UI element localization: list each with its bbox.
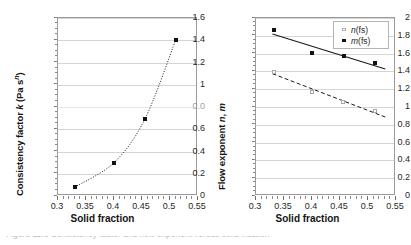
x-tick-label: 0.5 (361, 201, 374, 211)
y-minor-tick (253, 146, 255, 147)
y-minor-tick (253, 110, 255, 111)
x-tick-label: 0.45 (132, 201, 150, 211)
x-minor-tick (163, 196, 164, 199)
y-minor-tick (55, 122, 57, 123)
y-minor-tick (55, 178, 57, 179)
y-minor-tick (253, 190, 255, 191)
y-tick-label: 0.8 (364, 119, 410, 129)
y-minor-tick (55, 39, 57, 40)
y-minor-tick (253, 61, 255, 62)
y-minor-tick (55, 161, 57, 162)
x-tick-label: 0.35 (274, 201, 292, 211)
y-tick-label: 1 (152, 79, 205, 89)
y-tick-label: 0.6 (152, 123, 205, 133)
left-y-axis-units: (Pa s (14, 80, 25, 105)
y-minor-tick (55, 183, 57, 184)
x-major-tick (169, 196, 170, 200)
x-tick-label: 0.4 (305, 201, 318, 211)
y-minor-tick (253, 34, 255, 35)
x-minor-tick (317, 196, 318, 199)
data-point (143, 117, 147, 121)
y-minor-tick (55, 100, 57, 101)
x-minor-tick (373, 196, 374, 199)
right-x-axis-title-text: Solid fraction (276, 213, 340, 224)
y-minor-tick (55, 83, 57, 84)
y-tick-label: 0.0 (152, 101, 205, 111)
x-minor-tick (102, 196, 103, 199)
y-minor-tick (253, 88, 255, 89)
legend-swatch (342, 28, 346, 32)
y-tick-label: 1.2 (364, 83, 410, 93)
y-minor-tick (253, 30, 255, 31)
y-tick-label: 1.4 (152, 34, 205, 44)
y-minor-tick (253, 83, 255, 84)
y-tick-label: 0.4 (152, 146, 205, 156)
legend-swatch (342, 39, 346, 43)
x-minor-tick (289, 196, 290, 199)
y-minor-tick (253, 159, 255, 160)
x-minor-tick (389, 196, 390, 199)
y-minor-tick (55, 22, 57, 23)
x-major-tick (395, 196, 396, 200)
y-minor-tick (55, 156, 57, 157)
y-minor-tick (253, 21, 255, 22)
x-minor-tick (91, 196, 92, 199)
x-minor-tick (68, 196, 69, 199)
left-y-axis-units-close: ) (14, 73, 25, 76)
y-tick-label: 0.2 (152, 168, 205, 178)
data-point (272, 70, 276, 74)
x-minor-tick (119, 196, 120, 199)
y-minor-tick (253, 132, 255, 133)
x-major-tick (57, 196, 58, 200)
y-tick-label: 0.6 (364, 137, 410, 147)
x-minor-tick (124, 196, 125, 199)
data-point (342, 54, 346, 58)
x-major-tick (255, 196, 256, 200)
x-tick-label: 0.35 (76, 201, 94, 211)
y-minor-tick (55, 61, 57, 62)
y-minor-tick (253, 168, 255, 169)
x-tick-label: 0.55 (386, 201, 404, 211)
y-minor-tick (253, 43, 255, 44)
y-minor-tick (55, 94, 57, 95)
y-minor-tick (55, 172, 57, 173)
y-minor-tick (253, 25, 255, 26)
x-major-tick (367, 196, 368, 200)
x-major-tick (311, 196, 312, 200)
right-y-axis-title: Flow exponent n, m (216, 103, 227, 190)
figure-caption-clipped: Figure 11.3 Consistency factor and flow … (0, 236, 411, 245)
y-tick-label: 1.6 (364, 48, 410, 58)
y-minor-tick (253, 79, 255, 80)
x-minor-tick (266, 196, 267, 199)
x-tick-label: 0.3 (51, 201, 64, 211)
x-minor-tick (175, 196, 176, 199)
y-tick-label: 1.6 (152, 12, 205, 22)
figure-caption-text: Figure 11.3 Consistency factor and flow … (6, 236, 269, 239)
chart-panel-consistency-factor: Consistency factor k (Pa sn) 00.20.40.60… (0, 0, 205, 236)
y-minor-tick (55, 111, 57, 112)
right-x-axis-title: Solid fraction (205, 213, 410, 224)
y-minor-tick (253, 154, 255, 155)
y-minor-tick (55, 139, 57, 140)
y-minor-tick (253, 177, 255, 178)
y-minor-tick (55, 72, 57, 73)
y-minor-tick (253, 181, 255, 182)
data-point (112, 161, 116, 165)
x-minor-tick (158, 196, 159, 199)
x-major-tick (113, 196, 114, 200)
y-minor-tick (253, 74, 255, 75)
x-minor-tick (277, 196, 278, 199)
x-minor-tick (261, 196, 262, 199)
x-major-tick (339, 196, 340, 200)
right-y-axis-separator: , (216, 111, 227, 116)
x-minor-tick (152, 196, 153, 199)
x-tick-label: 0.45 (330, 201, 348, 211)
data-point (272, 28, 276, 32)
y-minor-tick (253, 150, 255, 151)
x-minor-tick (356, 196, 357, 199)
x-minor-tick (294, 196, 295, 199)
y-minor-tick (55, 67, 57, 68)
data-point (73, 185, 77, 189)
y-minor-tick (253, 141, 255, 142)
y-tick-label: 1.2 (152, 57, 205, 67)
